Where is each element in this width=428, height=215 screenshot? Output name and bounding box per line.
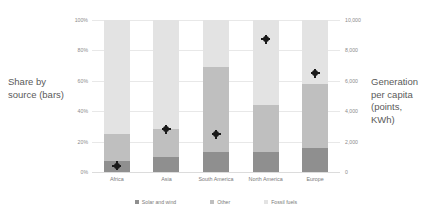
x-axis-category-label: South America (191, 176, 241, 183)
bar-segment[interactable] (203, 152, 229, 172)
bar-segment[interactable] (203, 67, 229, 152)
plot-area: 0%020%2,00040%4,00060%6,00080%8,000100%1… (92, 20, 340, 172)
bar-segment[interactable] (104, 20, 130, 134)
left-axis-tick-label: 100% (75, 17, 88, 23)
bar-segment[interactable] (253, 105, 279, 152)
right-axis-tick-label: 10,000 (345, 17, 361, 23)
legend-swatch-fossil-fuels (264, 200, 268, 204)
legend-item-other: Other (210, 199, 230, 205)
chart-container: Share by source (bars) Generation per ca… (0, 0, 428, 215)
bar-segment[interactable] (153, 20, 179, 129)
left-axis-tick-label: 80% (78, 47, 88, 53)
bar-group[interactable] (153, 20, 179, 172)
legend-label-other: Other (217, 199, 230, 205)
x-axis-category-label: North America (241, 176, 291, 183)
bar-group[interactable] (104, 20, 130, 172)
x-axis-category-label: Asia (142, 176, 192, 183)
left-axis-tick-label: 40% (78, 108, 88, 114)
legend-label-solar-and-wind: Solar and wind (142, 199, 176, 205)
right-axis-tick-label: 2,000 (345, 139, 358, 145)
legend-swatch-solar-and-wind (135, 200, 139, 204)
left-axis-tick-label: 0% (81, 169, 89, 175)
bar-group[interactable] (203, 20, 229, 172)
bar-segment[interactable] (104, 134, 130, 161)
bar-group[interactable] (302, 20, 328, 172)
bar-segment[interactable] (302, 84, 328, 148)
gridline (92, 172, 340, 173)
right-axis-title: Generation per capita (points, KWh) (371, 76, 428, 126)
bar-segment[interactable] (302, 148, 328, 172)
bar-segment[interactable] (253, 20, 279, 105)
legend-item-solar-and-wind: Solar and wind (135, 199, 176, 205)
bar-segment[interactable] (203, 20, 229, 67)
right-axis-tick-label: 0 (345, 169, 348, 175)
left-axis-tick-label: 60% (78, 78, 88, 84)
x-axis-category-label: Europe (290, 176, 340, 183)
right-axis-tick-label: 4,000 (345, 108, 358, 114)
legend-swatch-other (210, 200, 214, 204)
chart-legend: Solar and wind Other Fossil fuels (92, 197, 340, 207)
bar-segment[interactable] (253, 152, 279, 172)
data-point-marker[interactable] (263, 36, 269, 42)
right-axis-tick-label: 8,000 (345, 47, 358, 53)
x-axis-category-label: Africa (92, 176, 142, 183)
legend-item-fossil-fuels: Fossil fuels (264, 199, 297, 205)
left-axis-tick-label: 20% (78, 139, 88, 145)
data-point-marker[interactable] (114, 163, 120, 169)
bar-segment[interactable] (153, 157, 179, 172)
data-point-marker[interactable] (213, 131, 219, 137)
right-axis-tick-label: 6,000 (345, 78, 358, 84)
legend-label-fossil-fuels: Fossil fuels (271, 199, 297, 205)
left-axis-title: Share by source (bars) (8, 76, 66, 101)
